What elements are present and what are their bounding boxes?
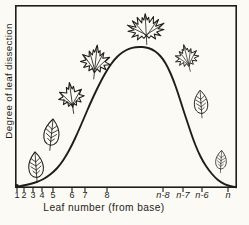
dissected-leaf-5-icon — [125, 11, 167, 49]
entire-leaf-1-icon — [24, 149, 48, 183]
x-axis-label: Leaf number (from base) — [43, 202, 164, 213]
x-tick-label: 3 — [30, 190, 35, 200]
x-tick-label: 8 — [104, 190, 109, 200]
x-tick-label: 7 — [82, 190, 87, 200]
entire-leaf-8-icon — [212, 147, 229, 176]
lobed-leaf-4-icon — [77, 42, 114, 81]
x-tick-label: n — [225, 190, 230, 200]
x-tick-label: n-8 — [156, 190, 169, 200]
x-tick-label: n-6 — [195, 190, 208, 200]
x-tick-label: 1 — [14, 190, 19, 200]
x-tick-label: 5 — [50, 190, 55, 200]
entire-leaf-7-icon — [190, 87, 212, 119]
entire-leaf-2-icon — [38, 116, 64, 152]
x-tick-label: 4 — [39, 190, 44, 200]
leaf-dissection-figure: 12345678n-8n-7n-6n Degree of leaf dissec… — [0, 0, 249, 225]
y-axis-label: Degree of leaf dissection — [3, 23, 14, 138]
x-tick-label: 6 — [69, 190, 74, 200]
lobed-leaf-3-icon — [54, 79, 87, 117]
x-tick-label: n-7 — [176, 190, 189, 200]
x-tick-label: 2 — [21, 190, 26, 200]
